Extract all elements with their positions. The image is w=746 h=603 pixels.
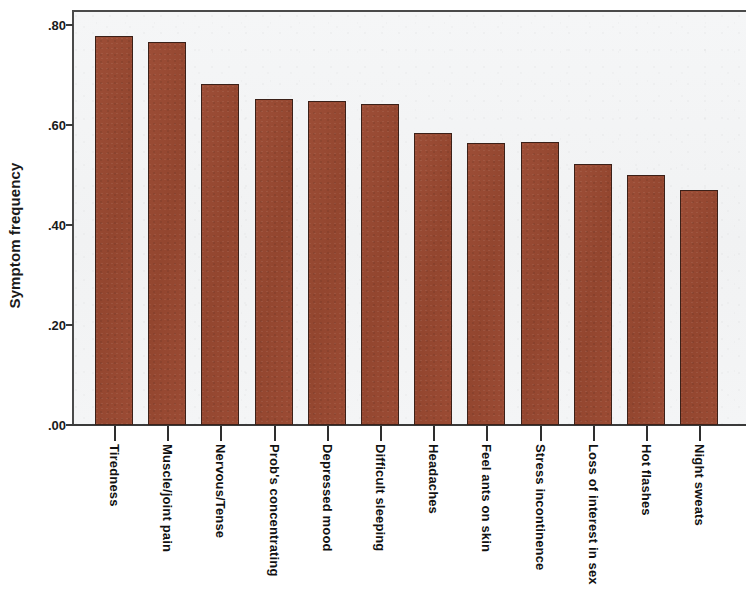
y-axis-title-text: Symptom frequency — [7, 162, 24, 308]
y-tick-label: .60 — [30, 118, 66, 133]
x-tick-mark — [540, 426, 542, 441]
bar — [521, 142, 559, 425]
bar — [414, 133, 452, 426]
x-tick-mark — [327, 426, 329, 441]
x-tick-label: Tiredness — [107, 444, 122, 507]
bar — [255, 99, 293, 425]
x-tick-label: Stress incontinence — [532, 444, 547, 570]
x-tick-label: Loss of interest in sex — [585, 444, 600, 585]
y-tick-mark — [66, 424, 73, 426]
x-tick-mark — [486, 426, 488, 441]
y-tick-label: .40 — [30, 218, 66, 233]
y-axis-title: Symptom frequency — [0, 90, 30, 380]
x-tick-label: Depressed mood — [319, 444, 334, 552]
x-tick-label: Headaches — [426, 444, 441, 514]
y-tick-mark — [66, 324, 73, 326]
x-tick-mark — [699, 426, 701, 441]
bar — [467, 143, 505, 425]
x-tick-mark — [380, 426, 382, 441]
bar — [574, 164, 612, 425]
bar — [95, 36, 133, 425]
bar — [201, 84, 239, 425]
x-tick-label: Prob's concentrating — [266, 444, 281, 577]
y-axis-tick-labels: .00.20.40.60.80 — [30, 0, 66, 603]
x-tick-mark — [274, 426, 276, 441]
x-tick-mark — [114, 426, 116, 441]
x-tick-mark — [167, 426, 169, 441]
x-tick-label: Difficult sleeping — [373, 444, 388, 551]
y-tick-mark — [66, 124, 73, 126]
y-tick-mark — [66, 24, 73, 26]
bar — [627, 175, 665, 425]
y-tick-label: .80 — [30, 18, 66, 33]
x-tick-label: Feel ants on skin — [479, 444, 494, 552]
x-tick-label: Nervous/Tense — [213, 444, 228, 538]
bar — [680, 190, 718, 425]
bar — [308, 101, 346, 425]
y-tick-label: .20 — [30, 318, 66, 333]
x-tick-mark — [220, 426, 222, 441]
x-tick-label: Muscle/joint pain — [160, 444, 175, 552]
bars-container — [72, 10, 746, 425]
x-tick-mark — [593, 426, 595, 441]
x-tick-mark — [433, 426, 435, 441]
chart-page: Symptom frequency .00.20.40.60.80 Tiredn… — [0, 0, 746, 603]
x-axis-category-labels: TirednessMuscle/joint painNervous/TenseP… — [72, 426, 746, 603]
y-tick-label: .00 — [30, 418, 66, 433]
x-tick-mark — [646, 426, 648, 441]
y-tick-mark — [66, 224, 73, 226]
bar — [148, 42, 186, 425]
x-tick-label: Hot flashes — [639, 444, 654, 516]
bar — [361, 104, 399, 425]
x-tick-label: Night sweats — [692, 444, 707, 526]
